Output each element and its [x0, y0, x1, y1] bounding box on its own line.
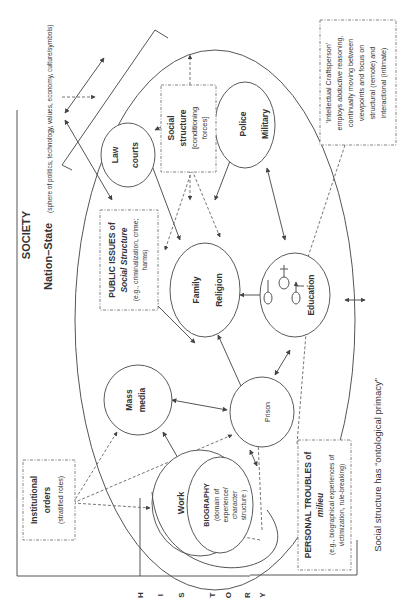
history-letter: T — [208, 592, 217, 597]
police-label: Police — [238, 111, 248, 136]
education-label: Education — [306, 274, 316, 315]
node-prison — [230, 377, 294, 447]
work-label: Work — [176, 491, 186, 514]
biography-desc-3: character — [231, 490, 238, 519]
biography-desc-4: structure ) — [240, 490, 248, 521]
biography-label: BIOGRAPHY — [202, 483, 211, 527]
craftsperson-line-4: viewpoints and focus on — [357, 45, 366, 122]
social-structure-desc: [conditioning — [190, 107, 199, 149]
public-issues-subtitle: Social Structure — [119, 227, 129, 292]
craftsperson-line-3: continually moving between — [346, 39, 355, 127]
bracket-tick — [62, 165, 72, 170]
family-label: Family — [191, 276, 201, 303]
law-courts-label: Law — [110, 146, 120, 163]
personal-troubles-subtitle: milieu — [315, 492, 325, 517]
public-issues-example: (e.g., criminalization, crime; — [132, 219, 140, 302]
institutional-orders-label: Institutional — [29, 476, 39, 524]
social-structure-label-2: structure — [178, 109, 188, 146]
law-courts-label-2: courts — [130, 142, 140, 168]
history-label: H I S T O R Y — [136, 592, 267, 598]
craftsperson-line-6: interactional (intimate) — [379, 48, 388, 119]
history-letter: S — [177, 592, 186, 598]
social-structure-label: Social — [166, 115, 176, 140]
history-letter: R — [243, 592, 252, 598]
history-letter: H — [136, 592, 145, 598]
nation-state-label: Nation–State — [42, 223, 54, 290]
ontological-primacy-note: Social structure has “ontological primac… — [372, 378, 383, 552]
history-letter: O — [224, 592, 233, 598]
prison-label: Prison — [264, 402, 271, 422]
institutional-orders-desc: (stratified roles) — [57, 476, 65, 524]
biography-desc-1: (domain of — [213, 489, 221, 521]
institutional-orders-label-2: orders — [42, 487, 52, 514]
media-label: media — [137, 387, 147, 412]
craftsperson-line-5: structural (remote) and — [368, 47, 377, 120]
personal-troubles-label: PERSONAL TROUBLES of — [303, 452, 313, 559]
religion-label: Religion — [214, 273, 224, 307]
public-issues-example-2: harms) — [141, 249, 149, 270]
personal-troubles-example: (e.g., biographical experiences of — [328, 455, 336, 555]
biography-desc-2: experience/ — [222, 487, 230, 522]
diagram-title: SOCIETY — [20, 210, 32, 259]
society-diagram: SOCIETY Nation–State (sphere of politics… — [0, 0, 414, 601]
craftsperson-line-1: ‘Intellectual Craftsperson’ — [324, 42, 333, 123]
node-family-religion — [170, 243, 240, 337]
history-letter: Y — [258, 592, 267, 598]
military-label: Military — [260, 109, 270, 139]
nation-state-description: (sphere of politics, technology, values,… — [46, 25, 54, 213]
mass-label: Mass — [124, 389, 134, 411]
social-structure-desc-2: forces] — [200, 117, 209, 140]
public-issues-label: PUBLIC ISSUES of — [107, 222, 117, 298]
craftsperson-line-2: employs abductive reasoning, — [335, 35, 344, 130]
node-education — [260, 253, 330, 337]
history-letter: I — [156, 594, 165, 596]
personal-troubles-example-2: victimization, rule-breaking) — [338, 464, 346, 547]
